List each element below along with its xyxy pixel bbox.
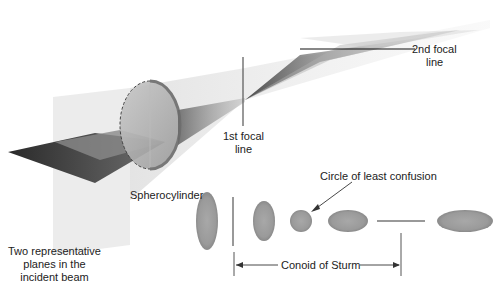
circle-of-least-confusion-label: Circle of least confusion	[320, 170, 437, 183]
spherocylinder-lens	[120, 81, 180, 169]
first-focal-line-label: 1st focal line	[223, 130, 264, 156]
circle-leader-arrow	[311, 182, 352, 212]
label-line: planes in the	[8, 258, 101, 271]
label-line: incident beam	[8, 271, 101, 284]
label-line: 1st focal	[223, 130, 264, 143]
spherocylinder-label: Spherocylinder	[130, 189, 203, 202]
conoid-of-sturm-label: Conoid of Sturm	[281, 259, 360, 272]
label-line: line	[223, 143, 264, 156]
vertical-ellipse-small	[253, 201, 275, 241]
horizontal-ellipse-large	[437, 210, 493, 232]
incident-planes-label: Two representative planes in the inciden…	[8, 245, 101, 284]
cross-sections	[196, 192, 493, 250]
label-line: 2nd focal	[412, 43, 457, 56]
label-line: line	[412, 56, 457, 69]
circle-of-least-confusion	[290, 210, 312, 232]
label-line: Two representative	[8, 245, 101, 258]
second-focal-line-label: 2nd focal line	[412, 43, 457, 69]
horizontal-ellipse-small	[328, 210, 368, 232]
